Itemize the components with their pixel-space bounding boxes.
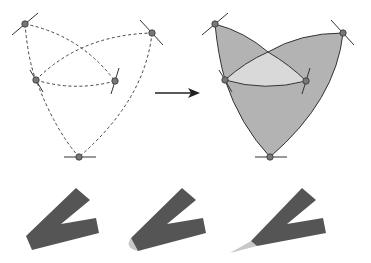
point-icon (33, 77, 39, 83)
point-icon (112, 78, 118, 84)
point-icon (149, 30, 155, 36)
curve-p1-p5 (25, 24, 79, 157)
miter-join (230, 188, 326, 253)
point-icon (303, 78, 309, 84)
right-figure (215, 24, 343, 157)
curve-p1-p4 (25, 24, 115, 81)
region-outer (215, 24, 343, 157)
diagram-canvas (0, 0, 371, 263)
bevel-join (26, 188, 99, 250)
point-icon (22, 21, 28, 27)
point-icon (212, 21, 218, 27)
point-icon (340, 30, 346, 36)
curve-p3-p4 (36, 80, 115, 86)
round-join (129, 188, 206, 251)
left-tangents (12, 13, 163, 157)
point-icon (76, 154, 82, 160)
curve-p2-p5 (79, 33, 152, 157)
left-figure (25, 24, 152, 157)
arrow-right-icon (155, 88, 200, 98)
curve-p3-p2 (36, 33, 152, 80)
point-icon (222, 77, 228, 83)
point-icon (267, 154, 273, 160)
